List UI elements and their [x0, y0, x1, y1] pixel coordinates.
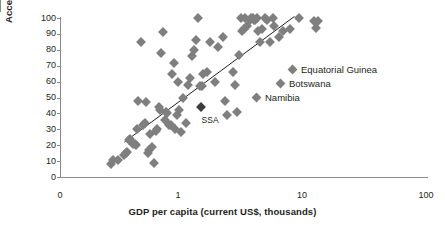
x-tick-label: 1: [175, 190, 180, 200]
y-tick-label: 90: [34, 29, 56, 38]
legend-label: Equatorial Guinea: [301, 64, 377, 75]
data-point: [136, 37, 146, 47]
data-point: [169, 58, 179, 68]
y-tick-label: 100: [34, 14, 56, 23]
data-point: [158, 27, 168, 37]
y-tick-mark: [57, 18, 61, 19]
y-tick-mark: [57, 34, 61, 35]
data-point: [220, 96, 230, 106]
legend-marker-icon: [252, 93, 262, 103]
data-point: [191, 35, 201, 45]
data-point: [193, 13, 203, 23]
data-point: [149, 158, 159, 168]
scatter-chart: Access to electricity (% of population) …: [0, 0, 445, 226]
legend-marker-icon: [276, 79, 286, 89]
y-tick-label: 40: [34, 109, 56, 118]
data-point: [173, 77, 183, 87]
data-point: [178, 93, 188, 103]
y-tick-mark: [57, 129, 61, 130]
x-axis-tick-labels: 0110100: [0, 0, 445, 12]
data-point: [141, 97, 151, 107]
legend-label: Namibia: [265, 92, 300, 103]
y-tick-mark: [57, 82, 61, 83]
y-tick-mark: [57, 161, 61, 162]
x-tick-label: 0: [57, 190, 62, 200]
y-tick-mark: [57, 66, 61, 67]
y-tick-mark: [57, 113, 61, 114]
y-tick-label: 0: [34, 173, 56, 182]
y-tick-label: 70: [34, 61, 56, 70]
legend-marker-icon: [288, 65, 298, 75]
y-tick-label: 60: [34, 77, 56, 86]
x-axis-title: GDP per capita (current US$, thousands): [0, 206, 445, 217]
y-tick-label: 20: [34, 141, 56, 150]
data-point: [167, 69, 177, 79]
y-tick-label: 30: [34, 125, 56, 134]
y-tick-label: 80: [34, 45, 56, 54]
y-tick-mark: [57, 50, 61, 51]
y-tick-label: 10: [34, 157, 56, 166]
data-point: [181, 118, 191, 128]
x-tick-label: 10: [297, 190, 307, 200]
y-axis-title: Access to electricity (% of population): [2, 0, 16, 28]
data-point: [234, 50, 244, 60]
data-point: [176, 128, 186, 138]
data-point: [294, 13, 304, 23]
legend-item: Botswana: [277, 78, 331, 89]
y-tick-mark: [57, 145, 61, 146]
data-point: [230, 80, 240, 90]
x-tick-label: 100: [418, 190, 433, 200]
data-point: [196, 102, 206, 112]
y-tick-mark: [57, 98, 61, 99]
legend-item: Namibia: [253, 92, 300, 103]
y-tick-mark: [57, 177, 61, 178]
data-point: [232, 107, 242, 117]
data-point: [265, 37, 275, 47]
data-point: [255, 37, 265, 47]
data-point: [210, 77, 220, 87]
y-tick-label: 50: [34, 93, 56, 102]
data-point: [213, 42, 223, 52]
x-axis-line: [60, 177, 428, 178]
point-annotation: SSA: [202, 115, 219, 125]
legend-item: Equatorial Guinea: [289, 64, 377, 75]
data-point: [285, 24, 295, 34]
x-tick-mark: [0, 8, 1, 12]
legend-label: Botswana: [289, 78, 331, 89]
data-point: [156, 48, 166, 58]
data-point: [228, 67, 238, 77]
data-point: [218, 32, 228, 42]
